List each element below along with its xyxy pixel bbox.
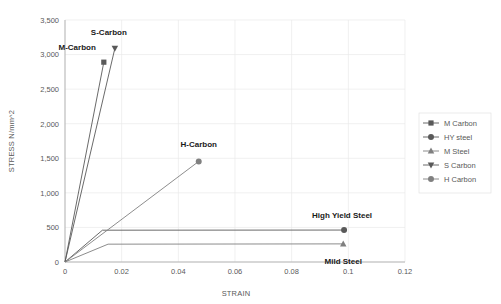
x-axis-title: STRAIN [222, 289, 251, 298]
y-tick-label: 500 [46, 223, 59, 232]
legend[interactable]: M CarbonHY steelM SteelS CarbonH Carbon [419, 113, 491, 193]
gridlines [65, 20, 405, 262]
x-axis-tick-labels: 00.020.040.060.080.10.12 [63, 267, 412, 276]
y-axis-tick-labels: 05001,0001,5002,0002,5003,0003,500 [40, 16, 59, 267]
data-point-markers [101, 46, 347, 247]
legend-label: HY steel [444, 133, 473, 142]
x-tick-label: 0 [63, 267, 67, 276]
legend-label: M Steel [444, 147, 470, 156]
y-tick-label: 2,000 [40, 120, 59, 129]
y-tick-label: 3,000 [40, 50, 59, 59]
series-annotation-label: High Yield Steel [312, 211, 372, 220]
series-end-marker [196, 158, 202, 164]
legend-label: S Carbon [444, 161, 476, 170]
series-end-marker [341, 227, 347, 233]
legend-marker-circle-icon [428, 176, 434, 182]
x-tick-label: 0.04 [171, 267, 186, 276]
y-tick-label: 1,000 [40, 189, 59, 198]
series-end-marker [112, 46, 119, 52]
y-tick-label: 0 [55, 258, 59, 267]
series-annotation-label: M-Carbon [58, 43, 95, 52]
series-line [65, 230, 344, 262]
y-axis-title: STRESS N/mm^2 [7, 110, 16, 172]
series-annotation-label: Mild Steel [325, 257, 362, 266]
chart-canvas: 05001,0001,5002,0002,5003,0003,500 00.02… [0, 0, 501, 304]
series-annotation-label: H-Carbon [181, 140, 218, 149]
legend-marker-circle-icon [428, 134, 434, 140]
y-tick-label: 1,500 [40, 154, 59, 163]
stress-strain-chart: 05001,0001,5002,0002,5003,0003,500 00.02… [0, 0, 501, 304]
series-line [65, 62, 104, 262]
legend-label: H Carbon [444, 175, 476, 184]
y-tick-label: 2,500 [40, 85, 59, 94]
legend-marker-square-icon [428, 120, 433, 125]
x-tick-label: 0.1 [343, 267, 353, 276]
data-series [65, 48, 344, 262]
x-tick-label: 0.12 [398, 267, 413, 276]
y-tick-label: 3,500 [40, 16, 59, 25]
legend-label: M Carbon [444, 119, 477, 128]
x-tick-label: 0.02 [114, 267, 129, 276]
x-tick-label: 0.08 [284, 267, 299, 276]
series-end-marker [101, 60, 106, 65]
series-line [65, 244, 343, 262]
series-annotation-label: S-Carbon [91, 28, 127, 37]
x-tick-label: 0.06 [228, 267, 243, 276]
